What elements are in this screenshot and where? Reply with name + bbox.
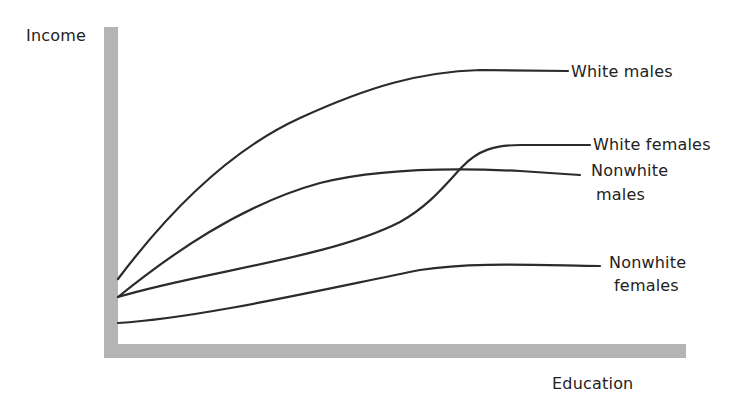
label-nonwhite-males-line2: males — [596, 185, 645, 205]
x-axis — [104, 344, 686, 358]
income-education-chart: Income Education White males White femal… — [0, 0, 752, 413]
line-nonwhite-females — [118, 265, 600, 323]
label-nonwhite-females-line1: Nonwhite — [609, 253, 686, 273]
x-axis-label: Education — [552, 374, 633, 394]
label-nonwhite-females-line2: females — [614, 276, 679, 296]
label-white-males: White males — [571, 62, 673, 82]
line-white-females — [118, 145, 590, 297]
line-nonwhite-males — [118, 169, 580, 297]
label-nonwhite-males-line1: Nonwhite — [591, 161, 668, 181]
y-axis — [104, 27, 118, 357]
label-white-females: White females — [593, 135, 711, 155]
y-axis-label: Income — [26, 26, 86, 46]
